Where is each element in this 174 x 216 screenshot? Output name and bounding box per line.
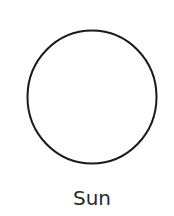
sun-circle [28,31,157,164]
sun-label: Sun [0,186,174,210]
diagram-canvas [0,0,174,216]
